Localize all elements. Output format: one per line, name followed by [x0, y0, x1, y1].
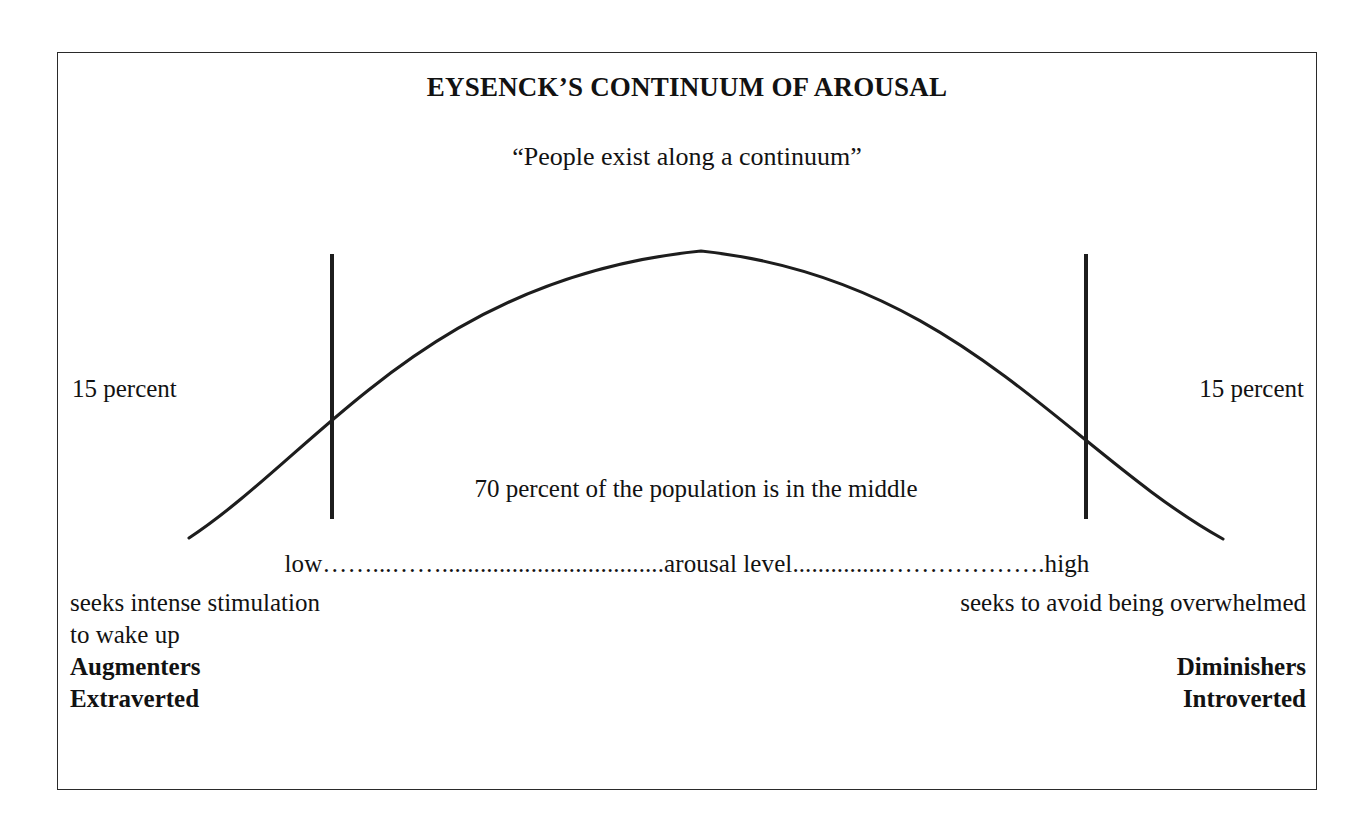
arousal-axis-label: low……...……..............................…: [58, 550, 1316, 579]
right-descriptor-block: seeks to avoid being overwhelmed Diminis…: [960, 587, 1306, 715]
diagram-frame: EYSENCK’S CONTINUUM OF AROUSAL “People e…: [57, 52, 1317, 790]
left-desc-line-1: seeks intense stimulation: [70, 589, 320, 616]
left-desc-extraverted: Extraverted: [70, 685, 199, 712]
left-desc-augmenters: Augmenters: [70, 653, 201, 680]
right-desc-spacer: [960, 619, 1306, 651]
middle-percent-label: 70 percent of the population is in the m…: [58, 475, 1316, 503]
diagram-root: EYSENCK’S CONTINUUM OF AROUSAL “People e…: [0, 0, 1361, 825]
right-desc-diminishers: Diminishers: [1177, 653, 1306, 680]
diagram-subtitle: “People exist along a continuum”: [58, 143, 1316, 172]
left-percent-label: 15 percent: [72, 375, 177, 403]
right-desc-introverted: Introverted: [1183, 685, 1306, 712]
right-desc-line-1: seeks to avoid being overwhelmed: [960, 589, 1306, 616]
left-desc-line-2: to wake up: [70, 621, 180, 648]
left-descriptor-block: seeks intense stimulation to wake up Aug…: [70, 587, 320, 715]
page-title: EYSENCK’S CONTINUUM OF AROUSAL: [58, 73, 1316, 103]
right-percent-label: 15 percent: [1199, 375, 1304, 403]
